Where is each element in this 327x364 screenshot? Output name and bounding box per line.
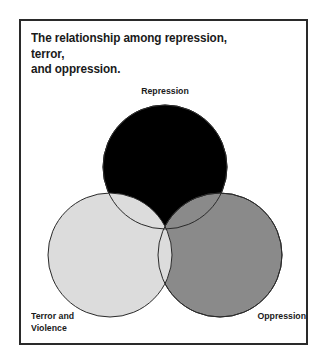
- venn-circle-oppression: [158, 193, 282, 317]
- venn-circle-terror-and-violence: [48, 193, 172, 317]
- venn-label-repression: Repression: [119, 85, 211, 97]
- venn-label-terror-and-violence: Terror and Violence: [31, 310, 114, 333]
- figure-root: The relationship among repression, terro…: [0, 0, 327, 364]
- venn-label-oppression: Oppression: [245, 310, 306, 322]
